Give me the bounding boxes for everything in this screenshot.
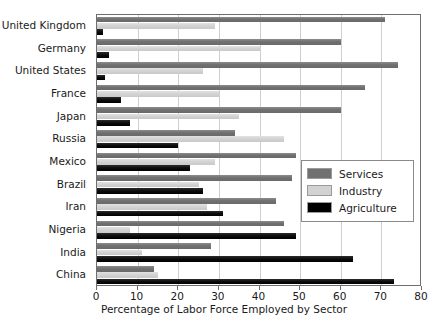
y-axis-labels: United KingdomGermanyUnited StatesFrance…: [0, 14, 92, 286]
bar-group: [97, 242, 420, 265]
legend-item-services: Services: [307, 165, 408, 182]
y-axis-label: Iran: [65, 195, 86, 218]
bar-industry: [97, 159, 215, 165]
bar-industry: [97, 114, 239, 120]
bar-agriculture: [97, 97, 121, 103]
legend-label-services: Services: [339, 168, 383, 180]
legend-item-agriculture: Agriculture: [307, 199, 408, 216]
bar-services: [97, 130, 235, 136]
bar-agriculture: [97, 165, 190, 171]
x-tick-label: 70: [374, 290, 387, 302]
bar-services: [97, 243, 211, 249]
y-axis-label: India: [60, 241, 86, 264]
y-axis-label: Brazil: [57, 173, 86, 196]
bar-chart: United KingdomGermanyUnited StatesFrance…: [0, 0, 448, 328]
bar-services: [97, 17, 385, 23]
y-axis-label: Japan: [57, 105, 86, 128]
bar-industry: [97, 136, 284, 142]
bar-services: [97, 85, 365, 91]
x-tick-label: 40: [252, 290, 265, 302]
x-tick-label: 10: [130, 290, 143, 302]
y-axis-label: Mexico: [49, 150, 86, 173]
bar-industry: [97, 182, 199, 188]
y-axis-label: Nigeria: [48, 218, 86, 241]
bar-agriculture: [97, 211, 223, 217]
bar-agriculture: [97, 188, 203, 194]
bar-group: [97, 106, 420, 129]
x-tick-label: 20: [171, 290, 184, 302]
bar-services: [97, 198, 276, 204]
bar-industry: [97, 272, 158, 278]
bar-services: [97, 62, 398, 68]
bar-group: [97, 15, 420, 38]
bar-services: [97, 175, 292, 181]
chart-legend: Services Industry Agriculture: [301, 160, 414, 222]
x-axis-title: Percentage of Labor Force Employed by Se…: [0, 303, 448, 315]
bar-industry: [97, 68, 203, 74]
bar-group: [97, 83, 420, 106]
bar-group: [97, 128, 420, 151]
bar-agriculture: [97, 233, 296, 239]
bar-agriculture: [97, 256, 353, 262]
legend-swatch-agriculture: [307, 202, 332, 213]
bar-services: [97, 107, 341, 113]
bar-industry: [97, 204, 207, 210]
bar-group: [97, 38, 420, 61]
bar-industry: [97, 91, 219, 97]
bar-agriculture: [97, 279, 394, 285]
x-tick-label: 80: [414, 290, 427, 302]
x-tick-label: 50: [292, 290, 305, 302]
legend-swatch-services: [307, 168, 332, 179]
y-axis-label: United Kingdom: [2, 14, 86, 37]
bar-industry: [97, 227, 130, 233]
legend-label-industry: Industry: [339, 185, 382, 197]
legend-label-agriculture: Agriculture: [339, 202, 397, 214]
x-tick-label: 30: [211, 290, 224, 302]
y-axis-label: United States: [15, 59, 86, 82]
y-axis-label: Russia: [52, 127, 86, 150]
bar-services: [97, 221, 284, 227]
bar-services: [97, 39, 341, 45]
bar-industry: [97, 23, 215, 29]
bar-industry: [97, 46, 260, 52]
bar-agriculture: [97, 120, 130, 126]
bar-group: [97, 264, 420, 286]
legend-item-industry: Industry: [307, 182, 408, 199]
bar-agriculture: [97, 29, 103, 35]
bar-agriculture: [97, 143, 178, 149]
bar-group: [97, 219, 420, 242]
bar-services: [97, 266, 154, 272]
plot-area: [96, 14, 421, 286]
y-axis-label: Germany: [38, 37, 86, 60]
y-axis-label: China: [56, 263, 86, 286]
bar-industry: [97, 250, 142, 256]
x-tick-label: 0: [93, 290, 100, 302]
x-axis-ticks: 01020304050607080: [0, 286, 448, 302]
bar-agriculture: [97, 75, 105, 81]
bar-group: [97, 60, 420, 83]
bar-agriculture: [97, 52, 109, 58]
x-tick-label: 60: [333, 290, 346, 302]
y-axis-label: France: [51, 82, 86, 105]
legend-swatch-industry: [307, 185, 332, 196]
bar-services: [97, 153, 296, 159]
